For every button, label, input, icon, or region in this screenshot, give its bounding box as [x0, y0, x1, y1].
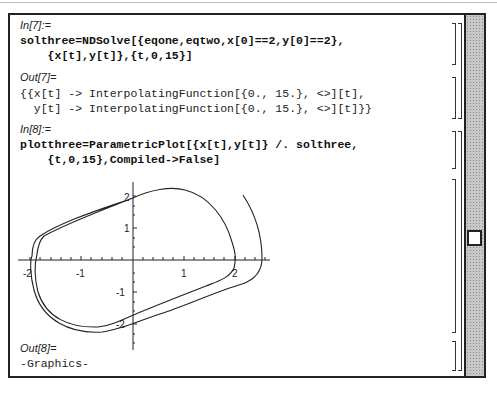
output-graphics: -Graphics-: [20, 356, 89, 371]
y-tick-labels: 2 1 -1 -2: [116, 192, 130, 330]
group-bracket-8[interactable]: [458, 131, 462, 371]
cell-bracket-in8[interactable]: [452, 131, 456, 169]
x-tick-label: -1: [76, 268, 85, 279]
input-line-2[interactable]: {x[t],y[t]},{t,0,15}]: [20, 48, 193, 63]
notebook-content: In[7]:= solthree=NDSolve[{eqone,eqtwo,x[…: [10, 15, 466, 376]
output-line-1: {{x[t] -> InterpolatingFunction[{0., 15.…: [20, 86, 365, 101]
cell-bracket-out8[interactable]: [452, 341, 456, 371]
x-axis: [18, 256, 270, 260]
cell-bracket-graphics[interactable]: [452, 179, 456, 333]
output-line-2: y[t] -> InterpolatingFunction[{0., 15.},…: [20, 101, 372, 116]
input-line-4[interactable]: {t,0,15},Compiled->False]: [20, 152, 220, 167]
cell-label-in7: In[7]:=: [20, 19, 51, 31]
cell-label-in8: In[8]:=: [20, 123, 51, 135]
input-line-1[interactable]: solthree=NDSolve[{eqone,eqtwo,x[0]==2,y[…: [20, 33, 344, 48]
vertical-scrollbar[interactable]: [464, 15, 484, 376]
y-tick-label: 1: [124, 223, 130, 234]
notebook-window: In[7]:= solthree=NDSolve[{eqone,eqtwo,x[…: [8, 13, 486, 378]
x-tick-label: 1: [181, 268, 187, 279]
cell-label-out8: Out[8]=: [20, 342, 56, 354]
cell-label-out7: Out[7]=: [20, 71, 56, 83]
cell-bracket-in7[interactable]: [452, 23, 456, 65]
y-axis: [133, 182, 137, 350]
cell-bracket-out7[interactable]: [452, 77, 456, 119]
input-line-3[interactable]: plotthree=ParametricPlot[{x[t],y[t]} /. …: [20, 137, 358, 152]
scroll-thumb[interactable]: [467, 230, 482, 246]
y-tick-label: -1: [116, 287, 125, 298]
window-top-edge: [0, 2, 497, 3]
group-bracket-7[interactable]: [458, 23, 462, 119]
x-tick-labels: -2 -1 1 2: [23, 268, 238, 279]
parametric-plot[interactable]: -2 -1 1 2 2 1 -1 -2: [10, 180, 290, 350]
